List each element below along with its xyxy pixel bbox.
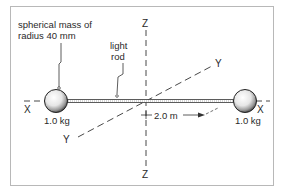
left-sphere — [45, 90, 68, 113]
y-axis-label-top: Y — [215, 58, 222, 69]
left-mass-label: 1.0 kg — [44, 115, 70, 126]
distance-dimension — [141, 108, 218, 119]
x-axis-label-left: X — [24, 104, 31, 115]
sphere-annotation-line2: radius 40 mm — [18, 30, 76, 41]
rod-leader-line — [117, 63, 123, 94]
right-sphere — [234, 90, 257, 113]
sphere-leader-dot — [58, 87, 61, 90]
distance-label: 2.0 m — [154, 110, 178, 121]
rod-annotation-line1: light — [110, 40, 128, 51]
light-rod — [66, 100, 234, 103]
right-mass-label: 1.0 kg — [235, 115, 261, 126]
dumbbell-diagram: Z Z Y Y X X 1.0 kg 1.0 kg spherical mass… — [0, 0, 282, 189]
z-axis-label-top: Z — [142, 18, 148, 29]
rod-leader-dot — [116, 95, 119, 98]
rod-annotation-line2: rod — [111, 51, 125, 62]
z-axis-label-bottom: Z — [142, 169, 148, 180]
x-axis-label-right: X — [257, 104, 264, 115]
sphere-annotation-line1: spherical mass of — [18, 19, 92, 30]
sphere-leader-line — [59, 43, 61, 87]
y-axis-label-bottom: Y — [63, 134, 70, 145]
